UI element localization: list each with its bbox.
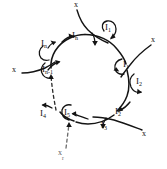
node-label-i1-top: I1 <box>105 23 111 32</box>
arrow-stem-in-left <box>48 42 55 48</box>
node-label-i3: I3 <box>101 121 107 130</box>
node-label-in-top: In <box>72 31 78 40</box>
substrate-branches-group <box>22 10 151 148</box>
node-label-i4: I4 <box>40 109 46 118</box>
node-label-i2-lower: I2 <box>115 107 121 116</box>
arrowhead-into-in-minus-1 <box>55 60 60 65</box>
substrate-label-x-left: x <box>12 66 16 74</box>
arrowhead-x-bottom-dashed <box>66 122 72 127</box>
node-label-i5: I5 <box>64 108 70 117</box>
substrate-label-x-top: x <box>74 1 78 9</box>
substrate-label-x-bottom: xr <box>58 149 64 159</box>
branch-x-bottom-dashed <box>66 124 69 148</box>
substrate-label-x-right-lower: x <box>142 130 146 138</box>
node-label-i1-right: I1 <box>123 60 129 69</box>
reaction-arrows-group <box>39 21 142 129</box>
node-label-in-left: In <box>41 39 47 48</box>
substrate-label-x-right-upper: x <box>151 36 155 44</box>
figure-root: In In In-1 I4 I5 I3 I2 I2 I1 I1 x x x x … <box>0 0 167 169</box>
arrowhead-from-in-down <box>92 41 98 46</box>
node-label-i2-right: I2 <box>136 77 142 86</box>
arrowhead-into-i5 <box>72 111 77 117</box>
ring-arc-left-dashed <box>51 76 56 110</box>
node-label-in-minus-1: In-1 <box>42 65 53 74</box>
